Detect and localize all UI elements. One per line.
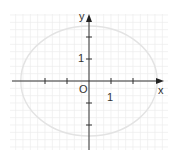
x-unit-label: 1 — [107, 91, 113, 103]
y-axis-label: y — [79, 10, 85, 22]
x-axis-label: x — [158, 84, 164, 96]
origin-label: O — [79, 83, 88, 95]
y-unit-label: 1 — [78, 52, 84, 64]
coordinate-plane: y x O 1 1 — [0, 0, 175, 160]
coordinate-figure: y x O 1 1 — [0, 0, 175, 160]
